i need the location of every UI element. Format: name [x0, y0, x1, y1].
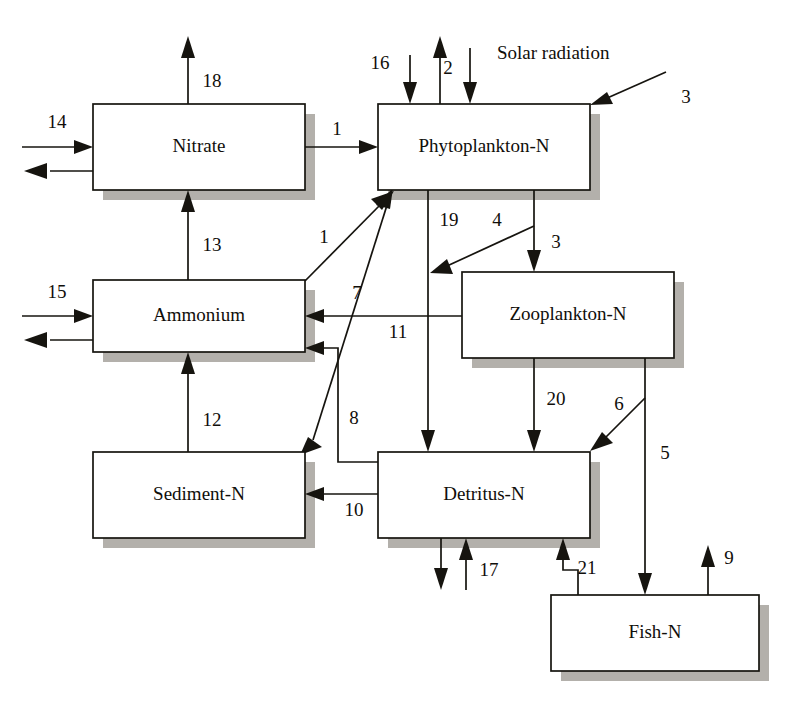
- box-label-phytoplankton: Phytoplankton-N: [419, 135, 550, 156]
- flow-label-5: 4: [492, 209, 502, 230]
- box-zooplankton[interactable]: Zooplankton-N: [462, 272, 674, 358]
- arrowhead-flow-3: [590, 92, 613, 105]
- box-detritus[interactable]: Detritus-N: [378, 452, 590, 538]
- flow-label-8: 7: [352, 282, 362, 303]
- box-sediment[interactable]: Sediment-N: [93, 452, 305, 538]
- flow-label-21: 20: [547, 388, 566, 409]
- box-phytoplankton[interactable]: Phytoplankton-N: [378, 104, 590, 190]
- arrowhead-flow-17: [403, 82, 417, 104]
- arrowhead-flow-21: [527, 430, 541, 452]
- flow-label-18: 17: [480, 559, 499, 580]
- flow-label-20: 19: [440, 209, 459, 230]
- arrowhead-flow-16: [74, 309, 93, 323]
- box-label-zooplankton: Zooplankton-N: [509, 303, 626, 324]
- flow-label-17: 16: [371, 52, 390, 73]
- flow-label-4: 3: [551, 231, 561, 252]
- flow-label-19: 18: [203, 70, 222, 91]
- box-label-sediment: Sediment-N: [153, 483, 245, 504]
- arrowhead-flow-6: [638, 573, 652, 595]
- flow-label-14: 13: [203, 234, 222, 255]
- box-label-fish: Fish-N: [629, 621, 682, 642]
- arrowhead-flow-1-nitrate: [359, 140, 378, 154]
- flow-diagram-canvas: Nitrate Phytoplankton-N Ammonium Zooplan…: [0, 0, 798, 710]
- flow-label-3: 3: [681, 86, 691, 107]
- nitrogen-cycle-diagram: Nitrate Phytoplankton-N Ammonium Zooplan…: [0, 0, 798, 710]
- arrowhead-flow-20: [421, 430, 435, 452]
- flow-label-10: 9: [724, 547, 734, 568]
- arrowhead-flow-5: [430, 259, 453, 274]
- line-flow-9: [312, 348, 378, 462]
- box-label-ammonium: Ammonium: [153, 304, 245, 325]
- flow-label-11: 10: [345, 499, 364, 520]
- arrowhead-flow-2: [463, 82, 477, 104]
- box-label-nitrate: Nitrate: [173, 135, 226, 156]
- flow-label-12: 11: [389, 321, 407, 342]
- line-flow-3: [605, 72, 666, 99]
- line-flow-7: [606, 398, 645, 437]
- box-nitrate[interactable]: Nitrate: [93, 104, 305, 190]
- flow-label-2: 2: [443, 57, 453, 78]
- flow-label-7: 6: [614, 393, 624, 414]
- arrowhead-detritus-export-down: [434, 568, 448, 590]
- flow-label-9: 8: [349, 407, 359, 428]
- arrowhead-nitrate-export-left: [24, 163, 47, 179]
- box-fish[interactable]: Fish-N: [551, 595, 759, 671]
- flow-label-6: 5: [660, 442, 670, 463]
- solar-radiation-annotation: Solar radiation: [497, 42, 610, 63]
- line-flow-1-ammonium: [305, 202, 383, 281]
- flow-label-1-nitrate: 1: [332, 118, 342, 139]
- arrowhead-flow-15: [74, 140, 93, 154]
- line-flow-22: [563, 554, 578, 595]
- compartment-boxes: Nitrate Phytoplankton-N Ammonium Zooplan…: [93, 104, 759, 671]
- flow-label-13: 12: [203, 409, 222, 430]
- flow-label-1-ammonium: 1: [319, 226, 329, 247]
- box-ammonium[interactable]: Ammonium: [93, 280, 305, 352]
- box-label-detritus: Detritus-N: [443, 483, 525, 504]
- flow-label-22: 21: [578, 557, 597, 578]
- flow-label-16: 15: [48, 281, 67, 302]
- arrowhead-flow-10: [701, 545, 715, 567]
- arrowhead-ammonium-export-left: [24, 332, 47, 348]
- arrowhead-flow-19: [181, 36, 195, 58]
- arrowhead-flow-7: [590, 432, 613, 451]
- arrowhead-flow-4: [527, 250, 541, 272]
- flow-label-15: 14: [48, 111, 68, 132]
- line-flow-5: [447, 226, 534, 266]
- arrowhead-phyto-export-up: [433, 36, 447, 58]
